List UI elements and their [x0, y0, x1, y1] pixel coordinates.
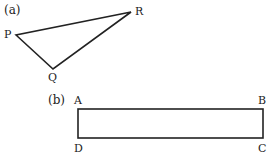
geometry-diagram: (a) P Q R (b) A B C D	[0, 0, 268, 158]
vertex-label-a: A	[73, 94, 83, 107]
part-label-a: (a)	[4, 3, 21, 17]
vertex-label-q: Q	[48, 71, 57, 84]
vertex-label-b: B	[258, 94, 266, 107]
rectangle-abcd	[78, 109, 263, 138]
triangle-pqr	[16, 12, 131, 69]
vertex-label-d: D	[74, 142, 83, 155]
vertex-label-p: P	[4, 28, 12, 41]
vertex-label-r: R	[135, 5, 144, 18]
part-label-b: (b)	[48, 93, 65, 107]
vertex-label-c: C	[258, 142, 266, 155]
